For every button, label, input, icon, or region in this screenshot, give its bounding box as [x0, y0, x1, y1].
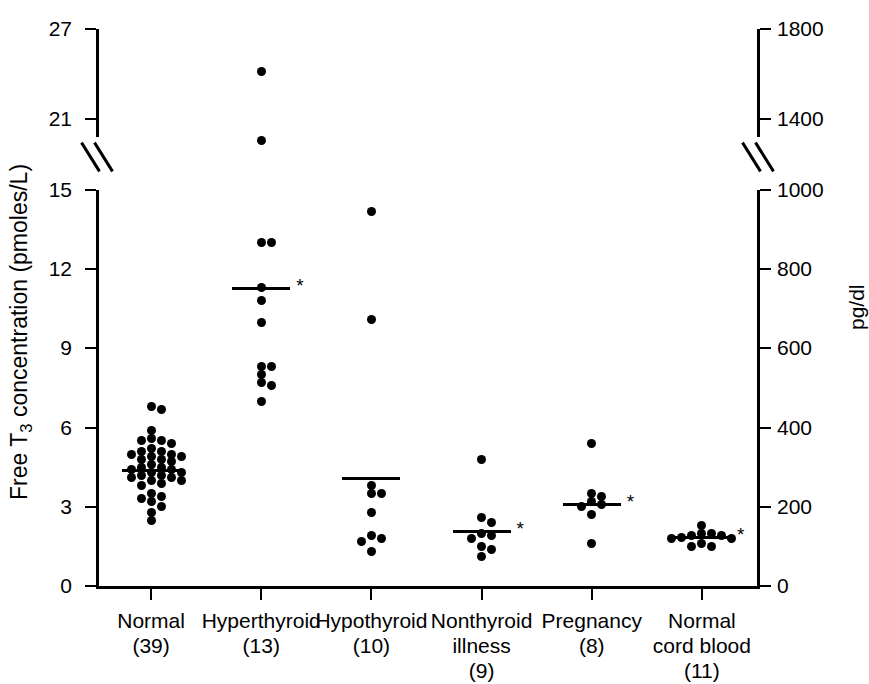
y-tick-label-left: 27	[12, 18, 72, 39]
x-category-name: Hyperthyroid	[200, 608, 322, 633]
data-point	[127, 450, 136, 459]
data-point	[137, 494, 146, 503]
data-point	[257, 136, 266, 145]
data-point	[477, 552, 486, 561]
data-point	[587, 539, 596, 548]
data-point	[487, 545, 496, 554]
x-tick	[370, 589, 372, 600]
right-axis-lower	[757, 190, 760, 586]
x-category-count: (11)	[641, 658, 763, 683]
data-point	[257, 296, 266, 305]
data-point	[137, 436, 146, 445]
x-tick	[150, 589, 152, 600]
x-category-label: Hyperthyroid(13)	[200, 608, 322, 658]
x-tick	[260, 589, 262, 600]
x-category-name: Normal	[90, 608, 212, 633]
mean-line	[342, 477, 400, 480]
data-point	[377, 534, 386, 543]
data-point	[487, 531, 496, 540]
x-category-count: (9)	[421, 658, 543, 683]
data-point	[157, 405, 166, 414]
data-point	[367, 547, 376, 556]
x-category-label: Hypothyroid(10)	[310, 608, 432, 658]
data-point	[587, 510, 596, 519]
data-point	[267, 238, 276, 247]
y-tick-left	[85, 347, 96, 349]
data-point	[477, 542, 486, 551]
y-axis-title-text: Free T	[6, 433, 32, 500]
data-point	[147, 516, 156, 525]
y-tick-label-left: 6	[12, 417, 72, 438]
data-point	[367, 531, 376, 540]
y-tick-label-left: 15	[12, 179, 72, 200]
significance-star: *	[737, 525, 744, 544]
data-point	[467, 534, 476, 543]
data-point	[127, 473, 136, 482]
x-category-count: (39)	[90, 633, 212, 658]
data-point	[697, 539, 706, 548]
data-point	[257, 397, 266, 406]
y-tick-label-right: 400	[777, 417, 847, 438]
x-tick	[591, 589, 593, 600]
y-tick-label-left: 21	[12, 108, 72, 129]
y-tick-right	[760, 506, 771, 508]
left-axis-upper	[96, 29, 99, 147]
data-point	[587, 439, 596, 448]
data-point	[167, 439, 176, 448]
significance-star: *	[296, 276, 303, 295]
x-category-label: Pregnancy(8)	[531, 608, 653, 658]
data-point	[707, 542, 716, 551]
data-point	[177, 452, 186, 461]
data-point	[137, 481, 146, 490]
mean-line	[673, 536, 731, 539]
data-point	[357, 537, 366, 546]
data-point	[267, 362, 276, 371]
y-tick-right	[760, 268, 771, 270]
x-category-count: (10)	[310, 633, 432, 658]
x-tick	[481, 589, 483, 600]
data-point	[687, 542, 696, 551]
significance-star: *	[517, 519, 524, 538]
data-point	[147, 497, 156, 506]
x-category-count: (8)	[531, 633, 653, 658]
data-point	[157, 436, 166, 445]
y-tick-label-left: 0	[12, 575, 72, 596]
x-category-name: illness	[421, 633, 543, 658]
data-point	[147, 402, 156, 411]
y-axis-title-unit: concentration (pmoles/L)	[6, 164, 32, 424]
data-point	[377, 489, 386, 498]
x-category-label: Nonthyroidillness(9)	[421, 608, 543, 683]
data-point	[367, 207, 376, 216]
y-tick-left	[85, 189, 96, 191]
y-tick-right	[760, 118, 771, 120]
x-axis-line	[96, 586, 760, 589]
data-point	[177, 476, 186, 485]
data-point	[367, 508, 376, 517]
data-point	[257, 318, 266, 327]
y-tick-label-left: 3	[12, 496, 72, 517]
x-category-name: cord blood	[641, 633, 763, 658]
data-point	[257, 378, 266, 387]
data-point	[147, 476, 156, 485]
y-tick-right	[760, 427, 771, 429]
y-tick-left	[85, 268, 96, 270]
y-tick-right	[760, 585, 771, 587]
data-point	[137, 471, 146, 480]
data-point	[367, 315, 376, 324]
y-axis-title-left: Free T3 concentration (pmoles/L)	[6, 164, 37, 500]
y-tick-label-right: 0	[777, 575, 847, 596]
right-axis-upper	[757, 29, 760, 147]
significance-star: *	[627, 492, 634, 511]
x-category-label: Normalcord blood(11)	[641, 608, 763, 683]
data-point	[147, 434, 156, 443]
data-point	[257, 67, 266, 76]
y-tick-left	[85, 427, 96, 429]
y-tick-left	[85, 506, 96, 508]
data-point	[167, 473, 176, 482]
y-tick-right	[760, 28, 771, 30]
y-tick-label-right: 600	[777, 337, 847, 358]
data-point	[487, 518, 496, 527]
y-tick-label-right: 800	[777, 258, 847, 279]
mean-line	[453, 530, 511, 533]
